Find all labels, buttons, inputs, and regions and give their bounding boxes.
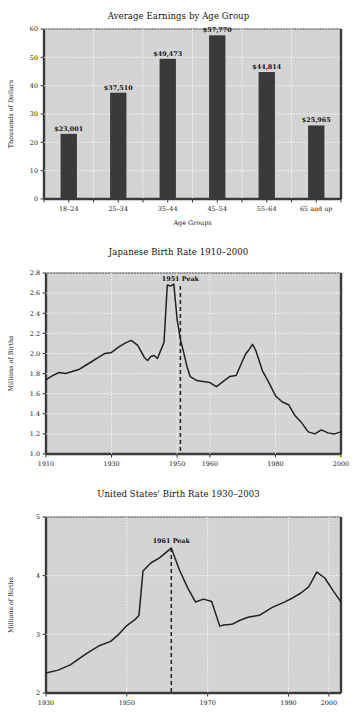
y-tick-label: 4 [36, 572, 40, 580]
earnings-bar-svg: 0102030405060$23,00118–24$37,51025–34$49… [0, 21, 357, 243]
plot-background [46, 517, 341, 693]
x-tick-label: 1960 [202, 460, 218, 468]
figure-page: Average Earnings by Age Group 0102030405… [0, 0, 357, 719]
y-tick-label: 2 [36, 689, 40, 697]
x-tick-label: 1950 [169, 460, 185, 468]
y-tick-label: 60 [30, 25, 38, 33]
x-tick-label: 1910 [38, 460, 54, 468]
bar [110, 93, 126, 199]
y-tick-label: 50 [30, 54, 38, 62]
x-tick-label: 1930 [103, 460, 119, 468]
bar-value-label: $44,814 [252, 63, 281, 71]
y-axis-title: Thousands of Dollars [7, 80, 15, 148]
y-tick-label: 1.6 [30, 390, 40, 398]
y-tick-label: 10 [30, 167, 38, 175]
bar-value-label: $57,770 [203, 26, 232, 34]
x-axis-title: Age Groups [172, 219, 211, 227]
x-tick-label: 1930 [38, 699, 54, 707]
y-tick-label: 1.0 [30, 450, 40, 458]
y-tick-label: 40 [30, 82, 38, 90]
x-tick-label: 1980 [267, 460, 283, 468]
bar [160, 59, 176, 199]
chart-us-birth-rate: United States' Birth Rate 1930–2003 2345… [0, 480, 357, 719]
chart-title-us: United States' Birth Rate 1930–2003 [0, 480, 357, 499]
bar [61, 134, 77, 199]
bar-value-label: $49,473 [153, 50, 182, 58]
bar-value-label: $25,965 [302, 116, 331, 124]
bar [259, 72, 275, 199]
plot-area-japan: 1.01.21.41.61.82.02.22.42.62.81910193019… [0, 257, 357, 483]
x-tick-label: 1970 [200, 699, 216, 707]
y-tick-label: 1.8 [30, 370, 40, 378]
us-line-svg: 2345193019501970199020001961 PeakMillion… [0, 499, 357, 719]
y-tick-label: 5 [36, 513, 40, 521]
bar [209, 35, 225, 199]
bar-value-label: $37,510 [104, 84, 133, 92]
y-axis-title: Millions of Births [7, 577, 15, 633]
chart-title-japan: Japanese Birth Rate 1910–2000 [0, 240, 357, 257]
y-tick-label: 20 [30, 139, 38, 147]
plot-area-us: 2345193019501970199020001961 PeakMillion… [0, 499, 357, 719]
x-category-label: 18–24 [59, 205, 78, 213]
y-tick-label: 3 [36, 631, 40, 639]
y-axis-title: Millions of Births [7, 336, 15, 392]
bar [308, 125, 324, 199]
x-category-label: 45–54 [208, 205, 227, 213]
japan-line-svg: 1.01.21.41.61.82.02.22.42.62.81910193019… [0, 257, 357, 483]
chart-japanese-birth-rate: Japanese Birth Rate 1910–2000 1.01.21.41… [0, 240, 357, 480]
plot-background [46, 273, 341, 454]
peak-annotation-label: 1961 Peak [153, 537, 191, 545]
x-tick-label: 1950 [119, 699, 135, 707]
y-tick-label: 2.6 [30, 289, 40, 297]
x-category-label: 35–44 [158, 205, 177, 213]
x-tick-label: 2000 [333, 460, 349, 468]
y-tick-label: 2.2 [30, 330, 40, 338]
x-category-label: 25–34 [109, 205, 128, 213]
x-category-label: 65 and up [300, 205, 332, 213]
plot-area-earnings: 0102030405060$23,00118–24$37,51025–34$49… [0, 21, 357, 243]
x-category-label: 55–64 [257, 205, 276, 213]
y-tick-label: 30 [30, 110, 38, 118]
y-tick-label: 1.4 [30, 410, 40, 418]
chart-average-earnings: Average Earnings by Age Group 0102030405… [0, 0, 357, 240]
x-tick-label: 1990 [280, 699, 296, 707]
y-tick-label: 2.4 [30, 310, 40, 318]
y-tick-label: 0 [34, 195, 38, 203]
chart-title-earnings: Average Earnings by Age Group [0, 0, 357, 21]
y-tick-label: 1.2 [30, 430, 40, 438]
bar-value-label: $23,001 [54, 125, 83, 133]
x-tick-label: 2000 [321, 699, 337, 707]
y-tick-label: 2.8 [30, 269, 40, 277]
peak-annotation-label: 1951 Peak [162, 275, 200, 283]
y-tick-label: 2.0 [30, 350, 40, 358]
